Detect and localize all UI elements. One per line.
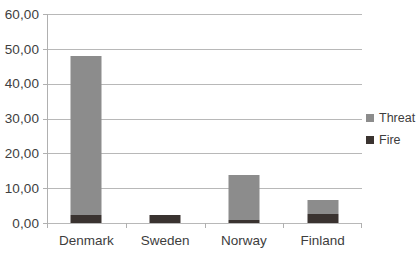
bar-group-denmark bbox=[47, 14, 126, 223]
bar-segment-fire[interactable] bbox=[71, 215, 102, 223]
bar-group-sweden bbox=[126, 14, 205, 223]
y-axis-label: 30,00 bbox=[0, 111, 39, 126]
bar-chart: 60,00 50,00 40,00 30,00 20,00 10,00 0,00 bbox=[0, 0, 418, 259]
bar-norway[interactable] bbox=[228, 175, 259, 223]
x-axis-label-finland: Finland bbox=[283, 233, 362, 248]
x-axis-ticks bbox=[47, 223, 362, 229]
bar-segment-threat[interactable] bbox=[71, 56, 102, 215]
legend-swatch-threat bbox=[366, 114, 374, 122]
x-tick bbox=[126, 223, 127, 228]
legend-swatch-fire bbox=[366, 136, 374, 144]
bar-group-norway bbox=[205, 14, 284, 223]
x-tick bbox=[361, 223, 362, 228]
y-axis-label: 20,00 bbox=[0, 146, 39, 161]
bar-segment-fire[interactable] bbox=[150, 215, 181, 223]
bar-finland[interactable] bbox=[307, 200, 338, 223]
y-axis-label: 10,00 bbox=[0, 181, 39, 196]
legend-label-threat: Threat bbox=[379, 111, 415, 125]
bar-segment-threat[interactable] bbox=[307, 200, 338, 215]
x-axis-label-denmark: Denmark bbox=[47, 233, 126, 248]
bar-denmark[interactable] bbox=[71, 56, 102, 223]
bar-sweden[interactable] bbox=[150, 215, 181, 223]
x-axis-label-norway: Norway bbox=[205, 233, 284, 248]
y-axis-label: 0,00 bbox=[0, 216, 39, 231]
y-axis-label: 40,00 bbox=[0, 76, 39, 91]
x-tick bbox=[47, 223, 48, 228]
chart-legend: Threat Fire bbox=[366, 107, 418, 151]
y-axis-label: 60,00 bbox=[0, 7, 39, 22]
x-tick bbox=[205, 223, 206, 228]
y-axis-label: 50,00 bbox=[0, 42, 39, 57]
legend-label-fire: Fire bbox=[379, 133, 401, 147]
x-tick bbox=[283, 223, 284, 228]
bar-group-finland bbox=[283, 14, 362, 223]
bar-segment-threat[interactable] bbox=[228, 175, 259, 220]
bar-segment-fire[interactable] bbox=[307, 214, 338, 223]
plot-area bbox=[47, 14, 362, 223]
legend-item-fire[interactable]: Fire bbox=[366, 129, 418, 151]
legend-item-threat[interactable]: Threat bbox=[366, 107, 418, 129]
clipped-text-artifact bbox=[0, 0, 418, 4]
x-axis-label-sweden: Sweden bbox=[126, 233, 205, 248]
